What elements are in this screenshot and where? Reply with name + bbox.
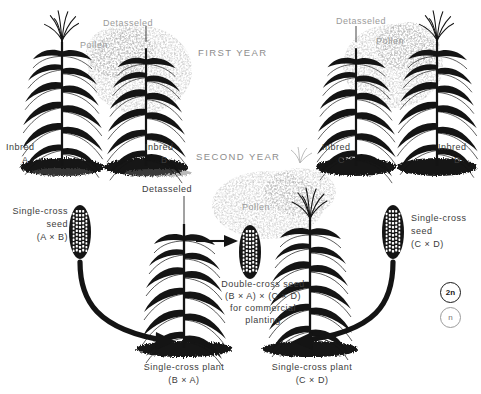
label-double-cross-seed-line3: for commercial	[188, 303, 338, 314]
label-inbred-a-line2: A	[22, 155, 29, 166]
stage-label-first-year: FIRST YEAR	[198, 47, 268, 58]
label-pollen-first-year-left: Pollen	[80, 40, 108, 51]
label-single-cross-seed-ab-line1: Single-cross	[0, 206, 68, 217]
legend-haploid-marker: n	[440, 307, 461, 328]
label-detasseled-second-year: Detasseled	[142, 184, 192, 195]
label-single-cross-plant-cd-line1: Single-cross plant	[238, 362, 386, 373]
label-inbred-d-line2: D	[454, 155, 461, 166]
ear-single-cross-cd	[382, 205, 404, 259]
label-inbred-b-line1: Inbred	[145, 142, 174, 153]
label-single-cross-plant-ba-line2: (B × A)	[110, 375, 258, 386]
label-single-cross-seed-cd-line2: seed	[411, 226, 433, 237]
label-inbred-b-line2: B	[161, 155, 168, 166]
label-single-cross-seed-cd-line1: Single-cross	[411, 213, 467, 224]
label-inbred-d-line1: Inbred	[438, 142, 467, 153]
harvest-arrow-head	[224, 235, 238, 247]
label-inbred-a-line1: Inbred	[6, 142, 35, 153]
soil-mound-inbred-b	[104, 158, 192, 177]
label-single-cross-seed-ab-line2: seed	[0, 219, 68, 230]
ear-single-cross-ab	[69, 205, 91, 259]
label-inbred-c-line1: Inbred	[322, 142, 351, 153]
label-detasseled-inbred-b: Detasseled	[103, 18, 153, 29]
label-inbred-c-line2: C	[338, 155, 345, 166]
corn-breeding-illustration	[0, 0, 481, 394]
label-double-cross-seed-line1: Double-cross seed	[188, 279, 338, 290]
label-double-cross-seed-line2: (B × A) × (C × D)	[188, 291, 338, 302]
label-pollen-first-year-right: Pollen	[376, 36, 404, 47]
decorative-tassel	[291, 147, 312, 163]
label-single-cross-plant-ba-line1: Single-cross plant	[110, 362, 258, 373]
label-pollen-second-year: Pollen	[242, 202, 270, 213]
label-double-cross-seed-line4: planting	[188, 315, 338, 326]
figure-canvas: FIRST YEAR SECOND YEAR Detasseled Pollen…	[0, 0, 481, 394]
stage-label-second-year: SECOND YEAR	[196, 151, 280, 162]
legend-diploid-marker: 2n	[440, 282, 461, 303]
label-detasseled-inbred-c: Detasseled	[336, 16, 386, 27]
label-single-cross-plant-cd-line2: (C × D)	[238, 375, 386, 386]
ear-double-cross	[239, 225, 261, 279]
label-single-cross-seed-ab-line3: (A × B)	[0, 232, 68, 243]
label-single-cross-seed-cd-line3: (C × D)	[411, 239, 444, 250]
